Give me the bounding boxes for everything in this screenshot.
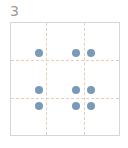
grid-divider-vertical-2 xyxy=(84,23,85,135)
grid-divider-horizontal-1 xyxy=(11,60,119,61)
dot xyxy=(72,102,80,110)
grid-divider-horizontal-2 xyxy=(11,98,119,99)
card-number-label: 3 xyxy=(10,3,19,19)
dot xyxy=(72,86,80,94)
dot xyxy=(35,49,43,57)
grid-divider-vertical-1 xyxy=(46,23,47,135)
dot xyxy=(72,49,80,57)
dot xyxy=(87,49,95,57)
dot xyxy=(87,102,95,110)
dot xyxy=(87,86,95,94)
dot-grid-card[interactable] xyxy=(10,22,120,136)
dot xyxy=(35,86,43,94)
dot xyxy=(35,102,43,110)
